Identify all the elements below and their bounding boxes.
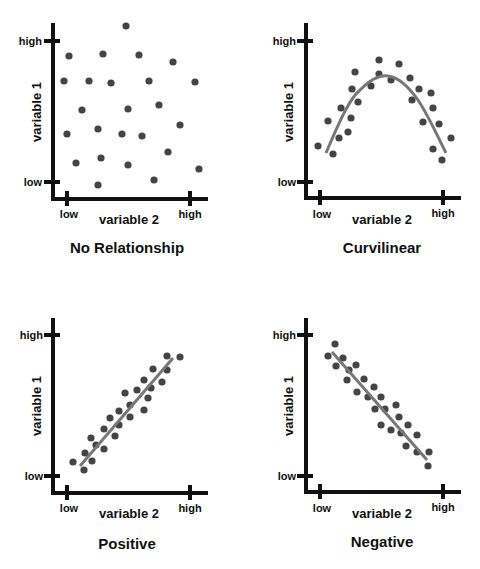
data-point — [335, 134, 342, 141]
data-point — [195, 165, 202, 172]
data-point — [324, 352, 331, 359]
data-point — [402, 442, 409, 449]
data-point — [331, 340, 338, 347]
scatter-figure: high low low high variable 2 variable 1 … — [0, 0, 480, 569]
data-point — [97, 154, 104, 161]
x-tick-label-low: low — [313, 502, 332, 514]
y-tick-label-high: high — [273, 35, 296, 47]
data-point — [435, 120, 442, 127]
data-point — [88, 457, 95, 464]
axes — [306, 320, 459, 492]
data-point — [69, 458, 76, 465]
panel-no-relationship: high low low high variable 2 variable 1 … — [19, 22, 206, 256]
data-point — [94, 181, 101, 188]
panel-title: Curvilinear — [343, 239, 422, 256]
data-point — [324, 117, 331, 124]
y-tick-label-low: low — [24, 176, 43, 188]
data-point — [85, 77, 92, 84]
panel-curvilinear: high low low high variable 2 variable 1 … — [273, 25, 459, 256]
x-axis-label: variable 2 — [99, 506, 159, 521]
data-point — [87, 434, 94, 441]
data-point — [348, 85, 355, 92]
data-point — [404, 421, 411, 428]
y-axis-label: variable 1 — [29, 82, 44, 142]
data-point — [406, 74, 413, 81]
data-point — [99, 50, 106, 57]
panel-title: Positive — [98, 535, 156, 552]
data-point — [65, 52, 72, 59]
data-point — [387, 426, 394, 433]
data-point — [370, 383, 377, 390]
data-point — [126, 413, 133, 420]
data-point — [111, 432, 118, 439]
x-axis-label: variable 2 — [352, 212, 412, 227]
data-point — [427, 89, 434, 96]
data-point — [150, 176, 157, 183]
data-point — [60, 77, 67, 84]
data-point — [332, 362, 339, 369]
data-point — [122, 22, 129, 29]
data-point — [145, 77, 152, 84]
y-axis-label: variable 1 — [281, 376, 296, 436]
data-point — [140, 376, 147, 383]
data-point — [419, 118, 426, 125]
y-axis-label: variable 1 — [29, 376, 44, 436]
data-point — [124, 105, 131, 112]
data-point — [375, 56, 382, 63]
data-point — [352, 361, 359, 368]
data-point — [169, 58, 176, 65]
x-tick-label-high: high — [431, 501, 454, 513]
data-point — [138, 132, 145, 139]
data-point — [124, 161, 131, 168]
data-point — [429, 104, 436, 111]
data-point — [377, 393, 384, 400]
data-point — [337, 104, 344, 111]
data-point — [351, 68, 358, 75]
trend-curve — [326, 76, 446, 153]
data-point — [100, 425, 107, 432]
x-axis-label: variable 2 — [99, 212, 159, 227]
y-axis-label: variable 1 — [281, 82, 296, 142]
data-point — [164, 148, 171, 155]
dots — [60, 22, 202, 188]
x-tick-label-high: high — [178, 208, 201, 220]
data-point — [144, 394, 151, 401]
y-tick-label-high: high — [273, 329, 296, 341]
data-point — [121, 389, 128, 396]
x-tick-label-low: low — [60, 208, 79, 220]
x-tick-label-high: high — [431, 207, 454, 219]
data-point — [314, 142, 321, 149]
y-tick-label-low: low — [278, 470, 297, 482]
data-point — [429, 145, 436, 152]
data-point — [415, 85, 422, 92]
x-tick-label-low: low — [60, 502, 79, 514]
data-point — [353, 388, 360, 395]
data-point — [107, 79, 114, 86]
data-point — [347, 114, 354, 121]
data-point — [344, 128, 351, 135]
panel-negative: high low low high variable 2 variable 1 … — [273, 320, 459, 550]
data-point — [371, 405, 378, 412]
data-point — [438, 156, 445, 163]
panel-title: Negative — [351, 533, 414, 550]
y-tick-label-high: high — [20, 329, 43, 341]
data-point — [80, 466, 87, 473]
data-point — [133, 386, 140, 393]
data-point — [158, 378, 165, 385]
data-point — [360, 375, 367, 382]
data-point — [94, 125, 101, 132]
data-point — [135, 51, 142, 58]
data-point — [377, 421, 384, 428]
data-point — [155, 101, 162, 108]
data-point — [140, 406, 147, 413]
data-point — [413, 431, 420, 438]
data-point — [118, 130, 125, 137]
data-point — [343, 376, 350, 383]
data-point — [72, 159, 79, 166]
data-point — [176, 121, 183, 128]
data-point — [191, 78, 198, 85]
data-point — [176, 353, 183, 360]
x-tick-label-high: high — [178, 502, 201, 514]
y-tick-label-low: low — [278, 176, 297, 188]
data-point — [100, 445, 107, 452]
